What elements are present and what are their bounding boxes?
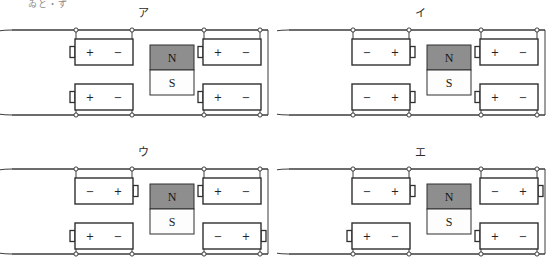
battery-bottom-left[interactable]: +−	[70, 84, 133, 115]
battery-terminal-cap	[410, 186, 415, 197]
battery-top-right[interactable]: +−	[475, 30, 538, 65]
magnet-block: NS	[427, 45, 471, 95]
battery-bottom-right[interactable]: +−	[475, 84, 538, 115]
magnet-south-label: S	[169, 215, 176, 229]
battery-terminal-cap	[261, 231, 266, 242]
wire-node	[351, 113, 355, 117]
battery-body	[75, 39, 133, 65]
wire-node	[258, 167, 262, 171]
circuit-diagram-panel-u: NS−++−+−−+	[0, 139, 277, 278]
battery-terminal-left-label: −	[363, 186, 371, 197]
battery-terminal-right-label: −	[519, 231, 527, 242]
battery-terminal-left-label: +	[86, 92, 94, 103]
battery-body	[352, 84, 410, 110]
panel-label-panel-i: イ	[277, 4, 554, 20]
wire-node	[202, 167, 206, 171]
magnet-south-label: S	[446, 215, 453, 229]
battery-terminal-left-label: −	[363, 47, 371, 58]
circuit-panel-ウ: ウNS−++−+−−+	[0, 139, 277, 278]
battery-top-right[interactable]: −+	[480, 169, 543, 204]
figure-root: ゐと・ず アNS+−+−+−+−イNS−++−−++−ウNS−++−+−−+エN…	[0, 0, 554, 278]
battery-terminal-right-label: −	[114, 47, 122, 58]
battery-bottom-left[interactable]: +−	[347, 223, 410, 254]
battery-terminal-left-label: −	[363, 92, 371, 103]
battery-top-left[interactable]: +−	[70, 30, 133, 65]
wire-node	[258, 28, 262, 32]
wire-node	[479, 167, 483, 171]
battery-body	[203, 84, 261, 110]
wire-node	[74, 113, 78, 117]
panel-label-text: ウ	[138, 143, 149, 159]
battery-terminal-left-label: +	[363, 231, 371, 242]
panel-label-text: イ	[415, 4, 426, 20]
magnet-north-label: N	[168, 190, 177, 204]
battery-terminal-right-label: −	[519, 92, 527, 103]
panel-label-panel-u: ウ	[0, 143, 277, 159]
magnet-block: NS	[427, 184, 471, 234]
wire-node	[535, 28, 539, 32]
battery-bottom-right[interactable]: +−	[198, 84, 261, 115]
battery-body	[75, 223, 133, 249]
battery-terminal-right-label: −	[242, 186, 250, 197]
wire-node	[407, 113, 411, 117]
battery-terminal-right-label: +	[391, 186, 399, 197]
battery-bottom-left[interactable]: +−	[70, 223, 133, 254]
wire-node	[130, 252, 134, 256]
battery-top-left[interactable]: −+	[352, 169, 415, 204]
battery-body	[352, 223, 410, 249]
battery-terminal-left-label: −	[86, 186, 94, 197]
battery-terminal-right-label: −	[242, 47, 250, 58]
wire-node	[535, 113, 539, 117]
battery-terminal-cap	[133, 186, 138, 197]
battery-terminal-right-label: −	[242, 92, 250, 103]
battery-body	[352, 39, 410, 65]
battery-bottom-right[interactable]: −+	[203, 223, 266, 254]
wire-node	[479, 28, 483, 32]
magnet-north-label: N	[168, 51, 177, 65]
panel-label-text: ア	[138, 4, 149, 20]
battery-body	[203, 223, 261, 249]
battery-terminal-cap	[70, 92, 75, 103]
wire-node	[351, 252, 355, 256]
battery-top-left[interactable]: −+	[352, 30, 415, 65]
battery-terminal-left-label: −	[214, 231, 222, 242]
battery-body	[480, 39, 538, 65]
battery-terminal-left-label: −	[491, 186, 499, 197]
wire-node	[351, 28, 355, 32]
battery-terminal-cap	[70, 231, 75, 242]
circuit-panel-イ: イNS−++−−++−	[277, 0, 554, 139]
battery-terminal-left-label: +	[86, 47, 94, 58]
battery-terminal-cap	[347, 231, 352, 242]
wire-node	[130, 28, 134, 32]
wire-node	[479, 113, 483, 117]
battery-top-right[interactable]: +−	[198, 169, 261, 204]
battery-top-left[interactable]: −+	[75, 169, 138, 204]
circuit-diagram-panel-a: NS+−+−+−+−	[0, 0, 277, 139]
battery-bottom-left[interactable]: −+	[352, 84, 415, 115]
battery-terminal-left-label: +	[86, 231, 94, 242]
battery-terminal-right-label: −	[114, 231, 122, 242]
wire-node	[202, 28, 206, 32]
battery-top-right[interactable]: +−	[198, 30, 261, 65]
battery-terminal-right-label: +	[114, 186, 122, 197]
battery-body	[203, 39, 261, 65]
magnet-south-label: S	[169, 76, 176, 90]
battery-bottom-right[interactable]: +−	[475, 223, 538, 254]
battery-body	[480, 84, 538, 110]
battery-terminal-right-label: +	[242, 231, 250, 242]
magnet-north-label: N	[445, 190, 454, 204]
wire-node	[258, 252, 262, 256]
magnet-block: NS	[150, 184, 194, 234]
magnet-south-label: S	[446, 76, 453, 90]
battery-terminal-left-label: +	[491, 92, 499, 103]
wire-node	[407, 167, 411, 171]
battery-body	[480, 178, 538, 204]
wire-node	[130, 113, 134, 117]
battery-terminal-right-label: −	[114, 92, 122, 103]
circuit-panel-エ: エNS−+−++−+−	[277, 139, 554, 278]
battery-terminal-left-label: +	[214, 186, 222, 197]
battery-terminal-cap	[475, 92, 480, 103]
wire-node	[130, 167, 134, 171]
wire-node	[74, 252, 78, 256]
battery-body	[480, 223, 538, 249]
